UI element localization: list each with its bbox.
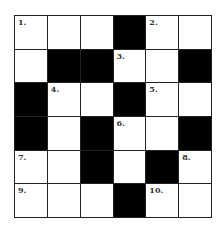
black-cell bbox=[15, 83, 47, 116]
black-cell bbox=[81, 50, 113, 83]
black-cell bbox=[114, 16, 146, 49]
crossword-cell[interactable] bbox=[48, 151, 80, 184]
crossword-cell[interactable]: 9. bbox=[15, 184, 47, 217]
crossword-cell[interactable]: 5. bbox=[146, 83, 178, 116]
clue-number: 5. bbox=[149, 85, 157, 93]
crossword-cell[interactable] bbox=[15, 50, 47, 83]
crossword-cell[interactable]: 2. bbox=[146, 16, 178, 49]
crossword-cell[interactable] bbox=[48, 184, 80, 217]
crossword-cell[interactable] bbox=[179, 16, 211, 49]
crossword-cell[interactable] bbox=[179, 184, 211, 217]
crossword-cell[interactable]: 7. bbox=[15, 151, 47, 184]
crossword-cell[interactable] bbox=[146, 117, 178, 150]
crossword-cell[interactable] bbox=[179, 83, 211, 116]
crossword-grid: 1.2.3.4.5.6.7.8.9.10. bbox=[14, 15, 212, 218]
clue-number: 2. bbox=[149, 18, 157, 26]
black-cell bbox=[15, 117, 47, 150]
clue-number: 4. bbox=[51, 85, 59, 93]
crossword-cell[interactable]: 4. bbox=[48, 83, 80, 116]
crossword-cell[interactable] bbox=[81, 16, 113, 49]
black-cell bbox=[179, 117, 211, 150]
black-cell bbox=[146, 151, 178, 184]
black-cell bbox=[179, 50, 211, 83]
black-cell bbox=[81, 117, 113, 150]
clue-number: 9. bbox=[18, 186, 26, 194]
clue-number: 3. bbox=[117, 52, 125, 60]
crossword-cell[interactable]: 1. bbox=[15, 16, 47, 49]
crossword-cell[interactable]: 8. bbox=[179, 151, 211, 184]
clue-number: 8. bbox=[182, 153, 190, 161]
crossword-cell[interactable] bbox=[81, 184, 113, 217]
clue-number: 6. bbox=[117, 119, 125, 127]
crossword-cell[interactable] bbox=[146, 50, 178, 83]
crossword-cell[interactable] bbox=[48, 16, 80, 49]
crossword-cell[interactable] bbox=[114, 151, 146, 184]
crossword-cell[interactable]: 6. bbox=[114, 117, 146, 150]
crossword-cell[interactable] bbox=[48, 117, 80, 150]
black-cell bbox=[48, 50, 80, 83]
black-cell bbox=[81, 151, 113, 184]
black-cell bbox=[114, 184, 146, 217]
crossword-cell[interactable] bbox=[81, 83, 113, 116]
clue-number: 1. bbox=[18, 18, 26, 26]
crossword-cell[interactable]: 3. bbox=[114, 50, 146, 83]
crossword-cell[interactable]: 10. bbox=[146, 184, 178, 217]
clue-number: 10. bbox=[149, 186, 163, 194]
clue-number: 7. bbox=[18, 153, 26, 161]
black-cell bbox=[114, 83, 146, 116]
